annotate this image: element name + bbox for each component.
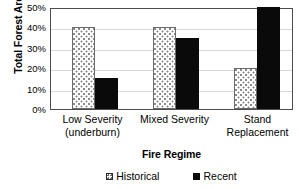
legend-label-recent: Recent — [203, 170, 236, 182]
legend: Historical Recent — [50, 168, 293, 184]
x-label-line1: Stand — [244, 113, 271, 125]
bar-recent-low-severity — [95, 78, 118, 109]
plot-area — [50, 8, 293, 110]
y-tick-label: 30% — [14, 44, 46, 54]
x-axis-category-labels: Low Severity (underburn) Mixed Severity … — [50, 113, 293, 147]
x-label-stand-replacement: Stand Replacement — [205, 113, 299, 139]
y-tick-label: 20% — [14, 64, 46, 74]
legend-entry-recent: Recent — [193, 170, 236, 182]
bar-historical-mixed-severity — [153, 27, 176, 109]
y-tick-label: 50% — [14, 3, 46, 13]
x-axis-title: Fire Regime — [50, 148, 293, 160]
legend-entry-historical: Historical — [106, 170, 159, 182]
y-axis-tick-labels: 50% 40% 30% 20% 10% 0% — [14, 0, 46, 189]
x-label-line1: Low Severity — [62, 113, 122, 125]
bar-recent-mixed-severity — [176, 38, 199, 109]
bar-recent-stand-replacement — [257, 7, 280, 109]
x-label-line1: Mixed Severity — [140, 113, 209, 125]
x-label-line2: (underburn) — [40, 126, 145, 139]
y-tick-label: 10% — [14, 85, 46, 95]
bar-chart: Total Forest Area 50% 40% 30% 20% 10% 0%… — [0, 0, 299, 189]
bar-historical-low-severity — [72, 27, 95, 109]
dotted-square-icon — [106, 173, 113, 180]
legend-label-historical: Historical — [116, 170, 159, 182]
bar-historical-stand-replacement — [234, 68, 257, 109]
x-label-line2: Replacement — [205, 126, 299, 139]
bars-layer — [51, 9, 292, 109]
y-tick-label: 40% — [14, 23, 46, 33]
black-square-icon — [193, 173, 200, 180]
